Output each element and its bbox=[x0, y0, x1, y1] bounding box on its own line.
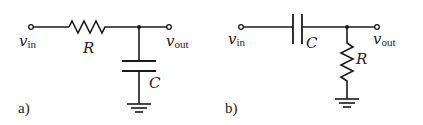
input-terminal-a bbox=[29, 25, 34, 30]
circuit-diagrams: vin R vout C a) vin C vout R b) bbox=[0, 0, 423, 125]
panel-tag-b: b) bbox=[225, 100, 238, 117]
ground-icon bbox=[335, 99, 359, 107]
resistor-label-b: R bbox=[355, 50, 367, 68]
panel-tag-a: a) bbox=[18, 100, 30, 117]
circuit-a-lowpass: vin R vout C a) bbox=[18, 21, 189, 117]
resistor-r-b bbox=[341, 27, 353, 99]
vin-label-b: vin bbox=[228, 30, 246, 48]
ground-icon bbox=[127, 104, 151, 112]
circuit-b-highpass: vin C vout R b) bbox=[225, 14, 396, 117]
resistor-r-a bbox=[69, 21, 108, 33]
capacitor-label-b: C bbox=[306, 34, 318, 52]
vin-label-a: vin bbox=[19, 32, 37, 50]
vout-label-a: vout bbox=[166, 32, 189, 50]
output-terminal-b bbox=[375, 25, 380, 30]
resistor-label-a: R bbox=[82, 39, 94, 57]
input-terminal-b bbox=[239, 25, 244, 30]
capacitor-label-a: C bbox=[149, 74, 161, 92]
output-terminal-a bbox=[167, 25, 172, 30]
vout-label-b: vout bbox=[373, 30, 396, 48]
